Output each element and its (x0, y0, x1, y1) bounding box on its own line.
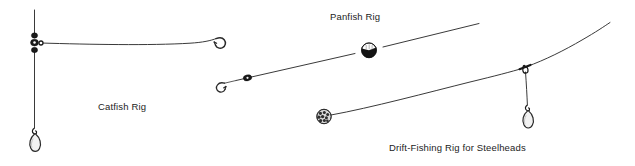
drift-leader-line (331, 69, 522, 116)
catfish-swivel-cluster (31, 33, 44, 53)
panfish-split-shot-icon (243, 74, 253, 82)
catfish-rig-label: Catfish Rig (98, 101, 146, 112)
swivel-eye (33, 41, 36, 44)
drift-fishing-rig-group: Drift-Fishing Rig for Steelheads (317, 23, 610, 154)
panfish-hook-icon (216, 83, 225, 92)
panfish-terminal-line (225, 81, 237, 84)
panfish-round-float-icon (362, 42, 377, 58)
catfish-rig-group: Catfish Rig (30, 10, 226, 151)
drift-main-line (527, 23, 610, 67)
bead-upper-icon (31, 33, 37, 38)
catfish-leader-line (41, 39, 216, 45)
split-shot-slot (246, 77, 248, 79)
drift-fishing-rig-label: Drift-Fishing Rig for Steelheads (389, 142, 526, 153)
drift-dropper-line (526, 72, 528, 105)
drift-spawn-sack-bait-icon (317, 109, 331, 123)
catfish-hook-icon (214, 38, 225, 48)
panfish-rig-group: Panfish Rig (216, 11, 479, 92)
diagram-canvas: Catfish Rig (0, 0, 635, 166)
drift-three-way-swivel-icon (520, 65, 531, 74)
drift-teardrop-sinker-icon (523, 105, 534, 128)
fishing-rigs-illustration: Catfish Rig (0, 0, 635, 166)
panfish-main-line (236, 54, 355, 81)
panfish-main-line-upper (383, 24, 479, 48)
panfish-rig-label: Panfish Rig (330, 11, 380, 22)
bead-lower-icon (31, 47, 37, 52)
swivel-side-ring (39, 41, 43, 45)
swivel-knot (523, 65, 526, 68)
catfish-teardrop-sinker-icon (30, 128, 41, 151)
